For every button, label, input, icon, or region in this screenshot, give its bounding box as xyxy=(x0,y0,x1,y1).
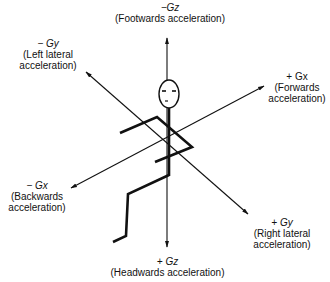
label-plus-gz: + Gz (Headwards acceleration) xyxy=(95,256,240,278)
desc-right-lateral-1: (Right lateral xyxy=(242,228,322,239)
head-icon xyxy=(159,80,179,108)
symbol-minus-gx: − Gx xyxy=(4,180,70,191)
desc-footwards: (Footwards acceleration) xyxy=(100,13,240,24)
label-minus-gx: − Gx (Backwards acceleration) xyxy=(4,180,70,213)
symbol-plus-gy: + Gy xyxy=(242,217,322,228)
desc-headwards: (Headwards acceleration) xyxy=(95,267,240,278)
stick-figure xyxy=(113,80,192,242)
desc-left-lateral-1: (Left lateral xyxy=(8,49,88,60)
legs xyxy=(113,175,169,242)
desc-backwards-1: (Backwards xyxy=(4,191,70,202)
symbol-minus-gz: −Gz xyxy=(100,2,240,13)
desc-left-lateral-2: acceleration) xyxy=(8,60,88,71)
label-plus-gy: + Gy (Right lateral acceleration) xyxy=(242,217,322,250)
label-minus-gy: − Gy (Left lateral acceleration) xyxy=(8,38,88,71)
desc-forwards-1: (Forwards xyxy=(262,82,330,93)
label-plus-gx: + Gx (Forwards acceleration) xyxy=(262,71,330,104)
symbol-plus-gx: + Gx xyxy=(262,71,330,82)
label-minus-gz: −Gz (Footwards acceleration) xyxy=(100,2,240,24)
desc-forwards-2: acceleration) xyxy=(262,93,330,104)
symbol-plus-gz: + Gz xyxy=(95,256,240,267)
desc-backwards-2: acceleration) xyxy=(4,202,70,213)
symbol-minus-gy: − Gy xyxy=(8,38,88,49)
desc-right-lateral-2: acceleration) xyxy=(242,239,322,250)
